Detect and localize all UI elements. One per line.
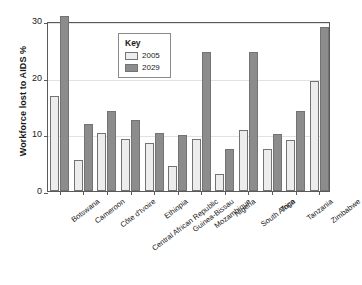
bar-2029: [84, 124, 93, 191]
y-axis-tick-mark: [44, 23, 48, 24]
x-axis-tick-mark: [201, 191, 202, 195]
x-axis-tick-mark: [83, 191, 84, 195]
y-axis-title: Workforce lost to AIDS %: [18, 16, 28, 186]
x-axis-tick-mark: [178, 191, 179, 195]
y-axis-tick-label: 20: [2, 73, 42, 83]
bar-2029: [131, 120, 140, 191]
bar-2029: [155, 133, 164, 191]
x-axis-tick-mark: [131, 191, 132, 195]
bar-group: [263, 23, 282, 191]
x-axis-tick-mark: [154, 191, 155, 195]
bar-2029: [107, 111, 116, 191]
bar-group: [286, 23, 305, 191]
x-axis-tick-mark: [107, 191, 108, 195]
bar-2005: [263, 149, 272, 191]
bar-2005: [215, 174, 224, 191]
bar-2029: [249, 52, 258, 191]
bar-2005: [50, 96, 59, 191]
bar-2005: [145, 143, 154, 191]
x-axis-tick-mark: [60, 191, 61, 195]
y-axis-tick-label: 0: [2, 186, 42, 196]
bar-group: [310, 23, 329, 191]
bar-2029: [178, 135, 187, 191]
x-axis-tick-mark: [296, 191, 297, 195]
legend-label: 2029: [142, 63, 160, 72]
legend-entry: 2005: [125, 51, 165, 60]
x-axis-label-ethiopia: Ethiopia: [163, 197, 190, 221]
legend-swatch-icon: [125, 64, 138, 72]
legend-entries: 20052029: [125, 51, 165, 72]
bar-group: [74, 23, 93, 191]
bar-group: [50, 23, 69, 191]
bar-2005: [168, 166, 177, 191]
y-axis-tick-mark: [44, 80, 48, 81]
legend-title: Key: [125, 38, 165, 48]
bar-2005: [192, 139, 201, 191]
x-axis-tick-mark: [272, 191, 273, 195]
y-axis-tick-label: 10: [2, 129, 42, 139]
bar-2005: [310, 81, 319, 192]
legend-swatch-icon: [125, 52, 138, 60]
y-axis-tick-label: 30: [2, 16, 42, 26]
bar-2029: [320, 27, 329, 191]
x-axis-tick-mark: [319, 191, 320, 195]
bar-2029: [296, 111, 305, 191]
bar-2029: [225, 149, 234, 191]
bar-2005: [239, 130, 248, 191]
bar-2005: [74, 160, 83, 191]
legend: Key 20052029: [118, 33, 171, 78]
y-axis-tick-mark: [44, 193, 48, 194]
bar-2029: [273, 134, 282, 191]
bar-group: [239, 23, 258, 191]
bar-2005: [121, 139, 130, 191]
legend-entry: 2029: [125, 63, 165, 72]
legend-label: 2005: [142, 51, 160, 60]
bar-2029: [60, 16, 69, 191]
bar-group: [192, 23, 211, 191]
bar-2005: [286, 140, 295, 191]
bar-group: [215, 23, 234, 191]
bar-2005: [97, 133, 106, 191]
plot-area: [47, 22, 330, 192]
bar-group: [168, 23, 187, 191]
y-axis-tick-mark: [44, 136, 48, 137]
x-axis-tick-mark: [248, 191, 249, 195]
bar-group: [97, 23, 116, 191]
bar-2029: [202, 52, 211, 191]
x-axis-label-zimbabwe: Zimbabwe: [329, 197, 362, 225]
x-axis-tick-mark: [225, 191, 226, 195]
